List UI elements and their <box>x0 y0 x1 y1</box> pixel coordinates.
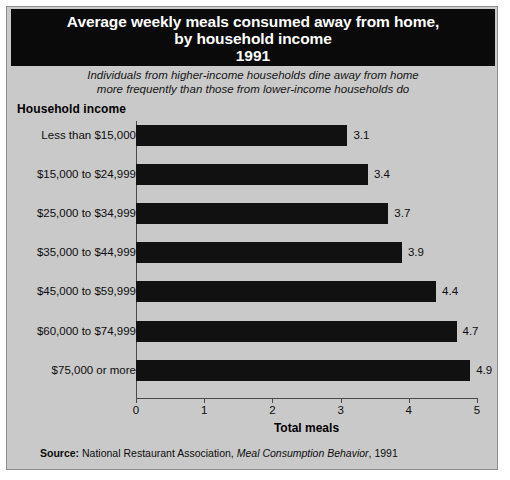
bar <box>136 360 470 381</box>
plot-area: 012345 Less than $15,0003.1$15,000 to $2… <box>7 7 499 471</box>
source-year: , 1991 <box>369 447 398 459</box>
source-note: Source: National Restaurant Association,… <box>40 447 398 459</box>
bar-value-label: 3.9 <box>408 245 424 259</box>
x-tick-label: 2 <box>262 404 282 416</box>
category-label: $35,000 to $44,999 <box>37 245 136 259</box>
bar-value-label: 4.9 <box>476 363 492 377</box>
x-tick <box>409 398 410 403</box>
bar-value-label: 4.4 <box>442 284 458 298</box>
x-tick-label: 4 <box>399 404 419 416</box>
category-label: $45,000 to $59,999 <box>37 284 136 298</box>
bar-value-label: 3.7 <box>394 206 410 220</box>
bar <box>136 125 347 146</box>
bar <box>136 164 368 185</box>
category-label: $60,000 to $74,999 <box>37 324 136 338</box>
bar-value-label: 4.7 <box>463 324 479 338</box>
category-label: $25,000 to $34,999 <box>37 206 136 220</box>
bar-value-label: 3.1 <box>353 128 369 142</box>
x-tick <box>477 398 478 403</box>
x-axis-title: Total meals <box>136 421 477 435</box>
x-tick-label: 1 <box>194 404 214 416</box>
source-publication: Meal Consumption Behavior <box>237 447 369 459</box>
x-tick <box>136 398 137 403</box>
x-tick <box>272 398 273 403</box>
bar <box>136 242 402 263</box>
x-axis-line <box>136 398 477 399</box>
x-tick <box>204 398 205 403</box>
bar <box>136 281 436 302</box>
category-label: $15,000 to $24,999 <box>37 167 136 181</box>
source-org: National Restaurant Association, <box>82 447 234 459</box>
x-tick-label: 0 <box>126 404 146 416</box>
category-label: Less than $15,000 <box>41 128 136 142</box>
source-label: Source: <box>40 447 79 459</box>
category-label: $75,000 or more <box>52 363 136 377</box>
x-tick-label: 5 <box>467 404 487 416</box>
chart-figure: Average weekly meals consumed away from … <box>6 6 498 470</box>
x-tick-label: 3 <box>331 404 351 416</box>
bar <box>136 321 457 342</box>
x-tick <box>341 398 342 403</box>
bar-value-label: 3.4 <box>374 167 390 181</box>
bar <box>136 203 388 224</box>
